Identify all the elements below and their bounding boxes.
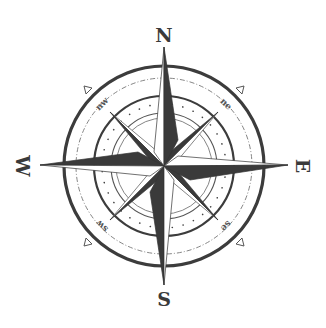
triangle-ne-icon [236,86,244,94]
triangle-se-icon [236,238,244,246]
label-southeast: se [219,219,234,234]
label-north: N [155,24,172,46]
east-point-light [164,156,288,166]
triangle-sw-icon [84,238,92,246]
compass-rose: N S W E nw ne sw se [0,0,326,328]
label-west: W [12,154,34,177]
label-south: S [157,288,171,310]
cardinal-points [40,47,288,285]
triangle-nw-icon [84,86,92,94]
label-southwest: sw [94,218,110,234]
label-east: E [292,159,314,173]
west-point-light [40,165,164,176]
